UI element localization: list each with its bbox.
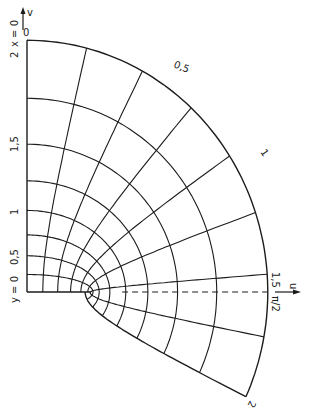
coordinate-grid-diagram: v u x = 0 y = 0 0 2 2 1,5 1 0,5 0,5 1 1,…: [0, 0, 312, 412]
ellipse-u-0.25: [27, 275, 93, 300]
left-tick-2: 2: [9, 52, 20, 58]
left-tick-1: 1: [9, 209, 20, 215]
ellipse-u-1.5: [27, 144, 178, 353]
arc-label-1-5: 1,5: [270, 272, 281, 288]
ellipse-curves: [27, 98, 217, 372]
ellipse-u-1.75: [27, 98, 217, 372]
y-equals-zero-label: y = 0: [9, 276, 20, 303]
x-equals-zero-label: x = 0: [9, 20, 20, 47]
arc-label-0-5: 0,5: [172, 59, 191, 75]
left-tick-0-5: 0,5: [9, 249, 20, 265]
ellipse-u-0.5: [27, 256, 99, 307]
pi-half-label: π/2: [270, 296, 281, 312]
u-axis-label: u: [288, 283, 299, 289]
hyperbola-theta-1.5: [91, 274, 267, 292]
hyperbola-theta-0.25: [43, 48, 87, 292]
arc-label-0: 0: [23, 27, 29, 38]
hyperbola-theta-1: [81, 156, 230, 292]
hyperbola-theta-0.5: [58, 71, 143, 292]
arc-label-2: 2: [245, 399, 258, 409]
left-tick-1-5: 1,5: [9, 136, 20, 152]
ellipse-u-1: [27, 210, 126, 326]
hyperbola-theta-0.75: [71, 108, 192, 292]
hyperbola-curves: [43, 48, 268, 337]
hyperbola-theta-2: [85, 292, 246, 397]
u-axis-arrow-icon: [275, 290, 301, 295]
ellipse-u-2: [27, 40, 268, 396]
arc-label-1: 1: [258, 147, 271, 159]
v-axis-label: v: [27, 7, 33, 18]
grid-boundary: [27, 40, 268, 396]
